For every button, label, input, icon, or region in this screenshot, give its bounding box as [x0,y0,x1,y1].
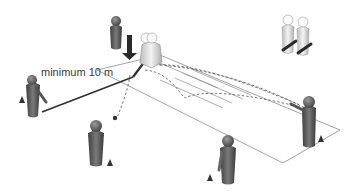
player-dark-top [110,16,122,50]
cone-icons [19,96,324,181]
drill-diagram: minimum 10 m [0,0,356,191]
player-dark-bottom-left [88,120,104,167]
down-arrow-icon [122,35,137,60]
ball-icon [113,116,117,120]
player-dark-bottom-middle [219,135,236,185]
player-light-center [140,33,162,68]
distance-line [42,77,133,112]
player-dark-right [291,96,316,148]
distance-annotation: minimum 10 m [41,66,113,78]
player-light-pair [282,15,311,56]
movement-paths [117,65,305,118]
